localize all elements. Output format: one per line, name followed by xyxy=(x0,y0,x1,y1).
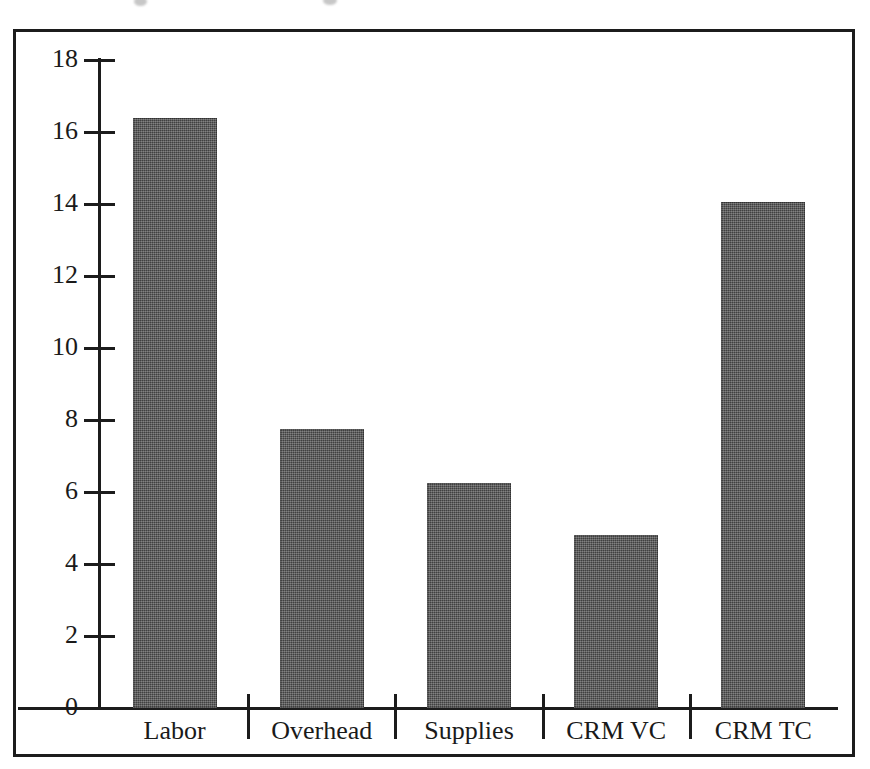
scan-artifact xyxy=(134,0,147,6)
bars-layer xyxy=(16,32,852,708)
x-axis-label-crm-tc: CRM TC xyxy=(690,718,837,744)
x-axis-label-supplies: Supplies xyxy=(395,718,542,744)
x-axis-label-labor: Labor xyxy=(101,718,248,744)
scan-artifact xyxy=(323,0,337,5)
bar-overhead xyxy=(280,429,364,708)
plot-area: 024681012141618 LaborOverheadSuppliesCRM… xyxy=(16,32,852,754)
bar-crm-tc xyxy=(721,202,805,708)
bar-supplies xyxy=(427,483,511,708)
x-axis-label-crm-vc: CRM VC xyxy=(543,718,690,744)
bar-labor xyxy=(133,118,217,708)
x-axis-label-overhead: Overhead xyxy=(248,718,395,744)
bar-crm-vc xyxy=(574,535,658,708)
chart-figure-frame: 024681012141618 LaborOverheadSuppliesCRM… xyxy=(13,29,855,757)
